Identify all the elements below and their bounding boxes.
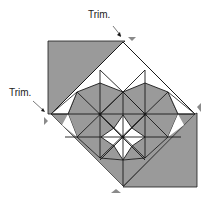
top-trim-marker <box>128 37 136 41</box>
left-center-dot <box>99 113 102 116</box>
top-trim-arrowhead <box>117 32 121 37</box>
star-center-dot <box>122 136 125 139</box>
quilt-diagram <box>0 0 214 203</box>
trim-label-left: Trim. <box>9 87 31 98</box>
right-center-dot <box>144 113 147 116</box>
left-trim-marker <box>44 117 48 125</box>
right-trim-marker <box>197 103 201 112</box>
bottom-trim-marker <box>111 189 121 193</box>
trim-label-top: Trim. <box>88 9 110 20</box>
